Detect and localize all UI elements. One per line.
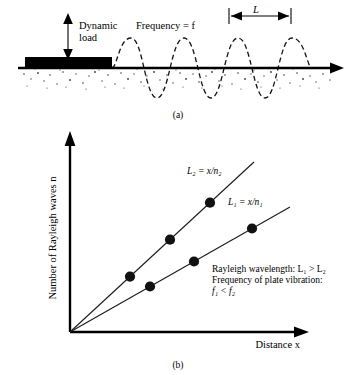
frequency-label: Frequency = f <box>136 20 195 31</box>
y-axis-arrow-head <box>65 131 76 146</box>
series-label-upper: L₂ = x/n₂ <box>186 166 222 176</box>
dynamic-load-label-line2: load <box>79 32 98 43</box>
x-axis-title: Distance x <box>255 339 300 350</box>
data-point <box>125 272 135 282</box>
y-axis-title: Number of Rayleigh waves n <box>47 176 58 300</box>
wavelength-dimension-label: L <box>252 4 259 15</box>
panel-a: Dynamic load Frequency = f L (a) <box>18 4 344 121</box>
series-line-upper <box>70 162 254 332</box>
data-point <box>205 198 215 208</box>
wavelength-dimension <box>229 8 291 24</box>
x-axis-arrow-head <box>294 327 309 338</box>
scientific-figure: Dynamic load Frequency = f L (a) <box>0 0 357 375</box>
note-line-2: Frequency of plate vibration: <box>212 275 323 285</box>
data-point <box>247 223 257 233</box>
dynamic-load-label-line1: Dynamic <box>79 20 118 31</box>
panel-b-caption: (b) <box>172 360 183 371</box>
note-line-1: Rayleigh wavelength: L₁ > L₂ <box>212 264 326 274</box>
data-point <box>189 256 199 266</box>
data-point <box>145 281 155 291</box>
soil-stipple-texture <box>23 68 330 89</box>
panel-b: L₂ = x/n₂ L₁ = x/n₁ Rayleigh wavelength:… <box>47 131 326 371</box>
panel-a-caption: (a) <box>173 110 184 121</box>
figure-root: Dynamic load Frequency = f L (a) <box>0 0 357 375</box>
data-point <box>165 235 175 245</box>
note-line-3: f₁ < f₂ <box>212 286 236 296</box>
series-label-lower: L₁ = x/n₁ <box>227 197 263 207</box>
dynamic-load-arrow <box>63 13 73 60</box>
ground-arrow-head <box>330 63 344 74</box>
